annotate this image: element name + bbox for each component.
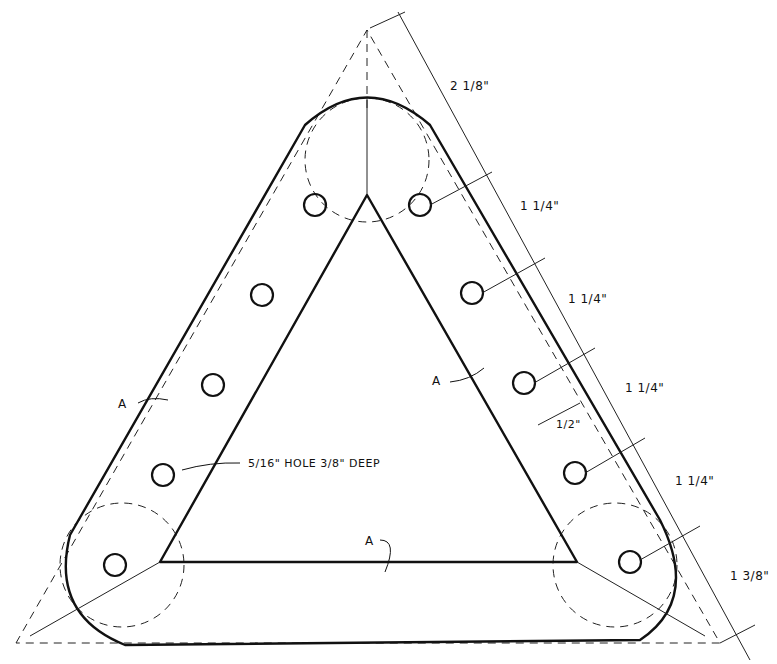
hole-callout: 5/16" HOLE 3/8" DEEP <box>248 457 380 470</box>
construction-triangle <box>16 30 720 643</box>
callout-leader <box>182 463 240 470</box>
frame-outline <box>66 98 676 646</box>
dim-label-spacing-2: 1 1/4" <box>568 292 607 306</box>
dim-label-edge-offset: 1/2" <box>556 418 581 431</box>
dim-label-spacing-1: 1 1/4" <box>520 199 559 213</box>
hole <box>104 554 126 576</box>
hole <box>409 194 431 216</box>
hole <box>461 282 483 304</box>
triangle-frame-drawing: 2 1/8" 1 1/4" 1 1/4" 1 1/4" 1 1/4" 1 3/8… <box>0 0 777 664</box>
dim-label-spacing-3: 1 1/4" <box>625 381 664 395</box>
part-label-bottom: A <box>365 534 374 548</box>
part-label-right: A <box>432 374 441 388</box>
corner-lines <box>30 98 705 636</box>
hole <box>304 194 326 216</box>
hole <box>152 464 174 486</box>
hole <box>619 551 641 573</box>
hole <box>513 372 535 394</box>
hole <box>202 374 224 396</box>
dim-label-last: 1 3/8" <box>730 569 769 583</box>
part-label-left: A <box>118 397 127 411</box>
hole <box>564 462 586 484</box>
dim-label-apex: 2 1/8" <box>450 79 489 93</box>
hole <box>251 284 273 306</box>
dim-label-spacing-4: 1 1/4" <box>675 474 714 488</box>
